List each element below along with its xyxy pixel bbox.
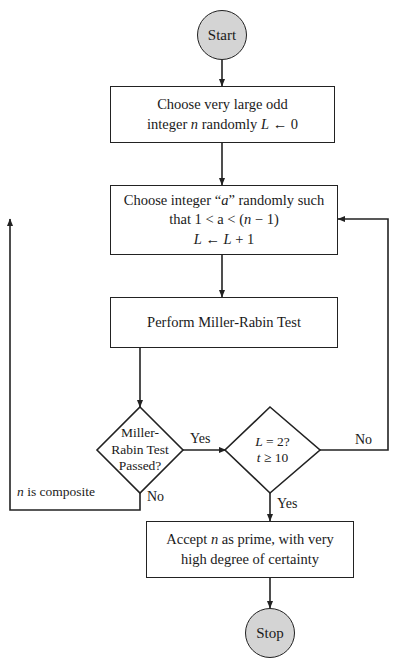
terminal-stop[interactable]: Stop <box>245 608 295 658</box>
flowchart-canvas: Start Choose very large odd integer n ra… <box>0 0 404 666</box>
choose-a-l2-post: − 1) <box>251 211 279 227</box>
label-passed-no: No <box>147 489 164 505</box>
label-count-yes: Yes <box>277 496 297 512</box>
decision-passed-shape <box>97 407 183 493</box>
decision-count-shape <box>225 407 320 493</box>
accept-l1-post: as prime, with very <box>218 531 334 547</box>
label-n-is-composite: n is composite <box>17 484 95 500</box>
accept-line-2: high degree of certainty <box>166 550 334 569</box>
choose-a-l3-post: + 1 <box>232 231 255 247</box>
choose-a-line-2: that 1 < a < (n − 1) <box>124 210 325 229</box>
label-passed-yes: Yes <box>190 431 210 447</box>
choose-n-l2-post: ← 0 <box>269 116 298 132</box>
choose-n-line-1: Choose very large odd <box>147 95 298 114</box>
choose-n-l2-pre: integer <box>147 116 191 132</box>
choose-a-var-l2: L <box>224 231 232 247</box>
accept-l1-pre: Accept <box>166 531 211 547</box>
choose-n-var-l: L <box>261 116 269 132</box>
choose-a-line-3: L ← L + 1 <box>124 230 325 249</box>
choose-a-var-l1: L <box>194 231 202 247</box>
choose-n-line-2: integer n randomly L ← 0 <box>147 115 298 134</box>
choose-a-line-1: Choose integer “a” randomly such <box>124 191 325 210</box>
choose-n-l2-mid: randomly <box>198 116 261 132</box>
composite-var-n: n <box>17 484 24 499</box>
composite-text: is composite <box>24 484 95 499</box>
process-choose-n[interactable]: Choose very large odd integer n randomly… <box>110 86 335 143</box>
label-count-no: No <box>355 432 372 448</box>
terminal-stop-label: Stop <box>256 625 284 642</box>
process-accept[interactable]: Accept n as prime, with very high degree… <box>146 521 354 578</box>
choose-a-l2-pre: that 1 < a < ( <box>169 211 244 227</box>
process-perform-test[interactable]: Perform Miller-Rabin Test <box>110 297 338 348</box>
terminal-start-label: Start <box>208 27 236 44</box>
terminal-start[interactable]: Start <box>197 10 247 60</box>
process-choose-a[interactable]: Choose integer “a” randomly such that 1 … <box>110 185 338 255</box>
choose-a-l3-mid: ← <box>202 231 224 247</box>
choose-a-l1-post: ” randomly such <box>228 192 324 208</box>
accept-line-1: Accept n as prime, with very <box>166 530 334 549</box>
choose-a-l1-pre: Choose integer “ <box>124 192 221 208</box>
perform-test-label: Perform Miller-Rabin Test <box>147 313 301 332</box>
